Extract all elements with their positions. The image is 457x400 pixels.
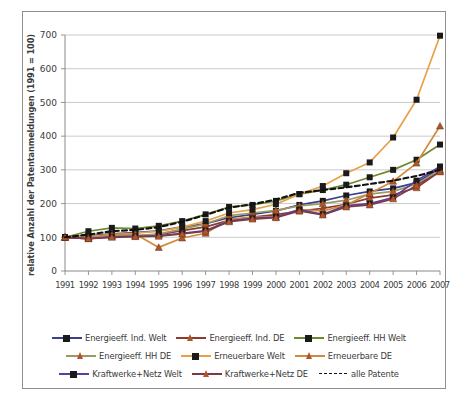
legend-swatch-icon xyxy=(59,369,89,379)
legend-swatch-icon xyxy=(318,369,348,379)
data-point-marker xyxy=(437,142,443,148)
x-axis-tick-label: 1995 xyxy=(149,280,169,290)
x-axis-tick-label: 2000 xyxy=(266,280,286,290)
legend-item[interactable]: Energieeff. Ind. DE xyxy=(176,333,284,343)
x-axis-tick-label: 1996 xyxy=(172,280,192,290)
series-line xyxy=(65,145,440,238)
x-axis-tick-label: 1993 xyxy=(102,280,122,290)
data-point-marker xyxy=(390,167,396,173)
legend-label: Energieeff. HH Welt xyxy=(327,333,406,343)
x-axis-tick-label: 2001 xyxy=(290,280,310,290)
legend-item[interactable]: Energieeff. HH Welt xyxy=(294,333,406,343)
y-axis-tick-label: 500 xyxy=(40,98,57,108)
legend-swatch-icon xyxy=(66,351,96,361)
legend-swatch-icon xyxy=(181,351,211,361)
x-axis-tick-label: 1991 xyxy=(55,280,75,290)
series-line xyxy=(65,126,440,247)
legend-label: Erneuerbare DE xyxy=(328,351,392,361)
x-axis-tick-label: 2005 xyxy=(383,280,403,290)
legend-row: Energieeff. HH DEErneuerbare WeltErneuer… xyxy=(24,347,434,365)
legend-item[interactable]: Erneuerbare Welt xyxy=(181,351,285,361)
data-point-marker xyxy=(414,97,420,103)
legend-item[interactable]: Energieeff. HH DE xyxy=(66,351,171,361)
data-point-marker xyxy=(250,207,256,213)
x-axis-tick-label: 2004 xyxy=(360,280,380,290)
x-axis-tick-label: 1998 xyxy=(219,280,239,290)
legend-swatch-icon xyxy=(176,333,206,343)
x-axis-tick-label: 1999 xyxy=(243,280,263,290)
data-point-marker xyxy=(273,201,279,207)
legend-item[interactable]: Energieeff. Ind. Welt xyxy=(52,333,166,343)
y-axis-tick-label: 100 xyxy=(40,233,57,243)
legend-label: Energieeff. HH DE xyxy=(99,351,171,361)
y-axis-tick-label: 0 xyxy=(51,266,57,276)
data-point-marker xyxy=(226,210,232,216)
legend-swatch-icon xyxy=(295,351,325,361)
legend-label: Kraftwerke+Netz Welt xyxy=(92,369,182,379)
x-axis-tick-label: 2006 xyxy=(407,280,427,290)
legend-label: Energieeff. Ind. DE xyxy=(209,333,284,343)
x-axis-tick-label: 1992 xyxy=(79,280,99,290)
chart-figure: relative Anzahl der Patentanmeldungen (1… xyxy=(0,0,457,400)
data-point-marker xyxy=(437,122,444,129)
legend-label: Energieeff. Ind. Welt xyxy=(85,333,166,343)
x-axis-tick-label: 2002 xyxy=(313,280,333,290)
data-point-marker xyxy=(343,170,349,176)
data-point-marker xyxy=(390,134,396,140)
data-point-marker xyxy=(179,224,185,230)
legend-label: alle Patente xyxy=(351,369,399,379)
data-point-marker xyxy=(109,225,115,231)
x-axis-tick-label: 2003 xyxy=(336,280,356,290)
legend-label: Erneuerbare Welt xyxy=(214,351,285,361)
legend-row: Kraftwerke+Netz WeltKraftwerke+Netz DEal… xyxy=(24,365,434,383)
data-point-marker xyxy=(367,159,373,165)
legend-swatch-icon xyxy=(52,333,82,343)
legend-item[interactable]: Erneuerbare DE xyxy=(295,351,392,361)
chart-legend: Energieeff. Ind. WeltEnergieeff. Ind. DE… xyxy=(24,329,434,387)
legend-swatch-icon xyxy=(294,333,324,343)
legend-item[interactable]: Kraftwerke+Netz Welt xyxy=(59,369,182,379)
y-axis-tick-label: 400 xyxy=(40,131,57,141)
legend-item[interactable]: alle Patente xyxy=(318,369,399,379)
legend-swatch-icon xyxy=(192,369,222,379)
data-point-marker xyxy=(367,174,373,180)
legend-row: Energieeff. Ind. WeltEnergieeff. Ind. DE… xyxy=(24,329,434,347)
data-point-marker xyxy=(437,33,443,39)
data-point-marker xyxy=(320,183,326,189)
y-axis-tick-label: 700 xyxy=(40,30,57,40)
data-point-marker xyxy=(203,218,209,224)
x-axis-tick-label: 1994 xyxy=(126,280,146,290)
legend-label: Kraftwerke+Netz DE xyxy=(225,369,308,379)
y-axis-tick-label: 200 xyxy=(40,199,57,209)
legend-item[interactable]: Kraftwerke+Netz DE xyxy=(192,369,308,379)
x-axis-tick-label: 1997 xyxy=(196,280,216,290)
x-axis-tick-label: 2007 xyxy=(430,280,450,290)
y-axis-tick-label: 600 xyxy=(40,64,57,74)
y-axis-tick-label: 300 xyxy=(40,165,57,175)
